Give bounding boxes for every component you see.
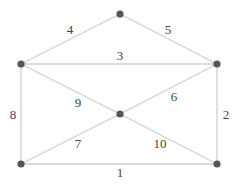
- edges-layer: [21, 14, 217, 164]
- edge-weight-label: 7: [75, 136, 82, 151]
- edge-weight-label: 3: [117, 48, 124, 63]
- graph-diagram: 12345678910: [0, 0, 236, 184]
- edge-weight-label: 9: [75, 95, 82, 110]
- graph-canvas: 12345678910: [0, 0, 236, 184]
- edge-left-upper-center: [21, 64, 120, 114]
- node-left-lower: [17, 160, 24, 167]
- edge-weight-label: 6: [171, 89, 178, 104]
- node-top: [116, 10, 123, 17]
- edge-center-right-upper: [120, 64, 217, 114]
- edge-weight-label: 5: [165, 22, 172, 37]
- node-right-lower: [213, 160, 220, 167]
- edge-weight-label: 10: [154, 136, 167, 151]
- node-right-upper: [213, 60, 220, 67]
- node-center: [116, 110, 123, 117]
- edge-left-lower-center: [21, 114, 120, 164]
- edge-labels-layer: 12345678910: [10, 22, 230, 180]
- nodes-layer: [17, 10, 220, 167]
- edge-weight-label: 2: [223, 107, 230, 122]
- edge-center-right-lower: [120, 114, 217, 164]
- node-left-upper: [17, 60, 24, 67]
- edge-weight-label: 8: [10, 107, 17, 122]
- edge-weight-label: 1: [117, 165, 124, 180]
- edge-weight-label: 4: [67, 22, 74, 37]
